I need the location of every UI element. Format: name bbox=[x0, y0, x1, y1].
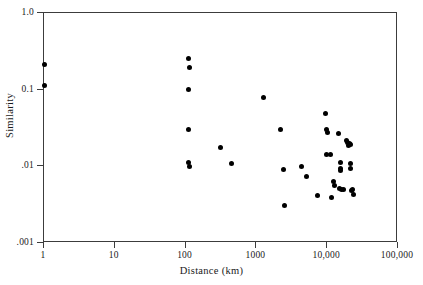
x-axis-tick-mark bbox=[397, 242, 398, 248]
y-axis-tick-label: 0.1 bbox=[22, 84, 34, 94]
data-point bbox=[281, 167, 286, 172]
data-points-layer bbox=[44, 13, 396, 241]
data-point bbox=[315, 193, 320, 198]
y-axis-tick-mark bbox=[37, 89, 43, 90]
y-axis-tick-label: .01 bbox=[22, 160, 34, 170]
data-point bbox=[304, 174, 309, 179]
data-point bbox=[186, 87, 191, 92]
x-axis-tick-label: 100,000 bbox=[381, 250, 413, 261]
y-axis-title: Similarity bbox=[4, 76, 15, 156]
data-point bbox=[186, 127, 191, 132]
y-axis-tick-label: .001 bbox=[17, 237, 34, 247]
data-point bbox=[332, 183, 337, 188]
data-point bbox=[261, 95, 266, 100]
x-axis-tick-label: 1000 bbox=[245, 250, 265, 261]
x-axis-tick-label: 1 bbox=[41, 250, 46, 261]
x-axis-tick-mark bbox=[326, 242, 327, 248]
x-axis-tick-mark bbox=[185, 242, 186, 248]
data-point bbox=[42, 83, 47, 88]
data-point bbox=[42, 62, 47, 67]
x-axis-tick-label: 100 bbox=[177, 250, 192, 261]
data-point bbox=[218, 145, 223, 150]
data-point bbox=[329, 195, 334, 200]
y-axis-tick-mark bbox=[37, 12, 43, 13]
data-point bbox=[278, 127, 283, 132]
x-axis-tick-label: 10,000 bbox=[313, 250, 340, 261]
x-axis-tick-label: 10 bbox=[109, 250, 119, 261]
data-point bbox=[336, 131, 341, 136]
data-point bbox=[341, 187, 346, 192]
data-point bbox=[282, 203, 287, 208]
y-axis-tick-mark bbox=[37, 165, 43, 166]
data-point bbox=[229, 161, 234, 166]
data-point bbox=[348, 161, 353, 166]
data-point bbox=[187, 164, 192, 169]
data-point bbox=[338, 160, 343, 165]
x-axis-tick-mark bbox=[255, 242, 256, 248]
data-point bbox=[351, 192, 356, 197]
data-point bbox=[186, 56, 191, 61]
data-point bbox=[187, 65, 192, 70]
x-axis-tick-mark bbox=[114, 242, 115, 248]
data-point bbox=[325, 130, 330, 135]
data-point bbox=[323, 111, 328, 116]
data-point bbox=[299, 164, 304, 169]
x-axis-tick-mark bbox=[43, 242, 44, 248]
plot-area bbox=[43, 12, 397, 242]
y-axis-tick-label: 1.0 bbox=[22, 7, 34, 17]
scatter-plot-figure: 1.00.1.01.001 110100100010,000100,000 Si… bbox=[0, 0, 423, 285]
x-axis-title: Distance (km) bbox=[0, 265, 423, 276]
data-point bbox=[338, 168, 343, 173]
data-point bbox=[348, 166, 353, 171]
data-point bbox=[328, 152, 333, 157]
data-point bbox=[348, 142, 353, 147]
